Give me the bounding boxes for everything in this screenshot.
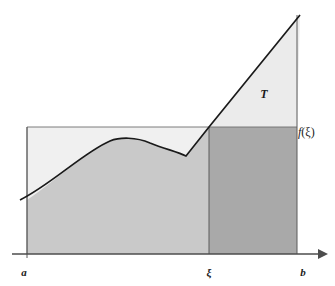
figure-root: a ξ b T f(ξ) bbox=[0, 0, 335, 286]
label-b: b bbox=[300, 266, 306, 278]
label-T: T bbox=[260, 87, 268, 101]
dark-rectangle-region bbox=[209, 127, 297, 254]
label-f-of-xi-arg: (ξ) bbox=[301, 125, 314, 139]
label-xi: ξ bbox=[207, 266, 212, 279]
math-diagram-canvas: a ξ b T f(ξ) bbox=[0, 0, 335, 286]
label-f-of-xi: f(ξ) bbox=[298, 125, 315, 139]
label-a: a bbox=[21, 266, 27, 278]
